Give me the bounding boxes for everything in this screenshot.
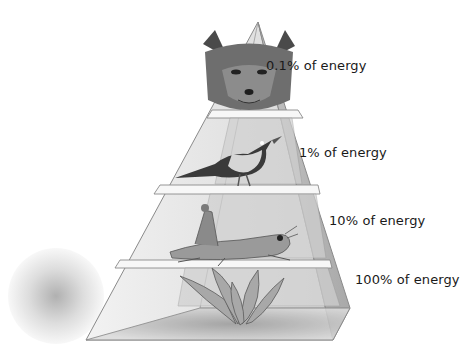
- energy-pyramid-diagram: 0.1% of energy 1% of energy 10% of energ…: [0, 0, 472, 363]
- level-1-energy-label: 100% of energy: [355, 272, 460, 287]
- level-3-energy-label: 1% of energy: [299, 145, 387, 160]
- level-2-energy-label: 10% of energy: [329, 213, 425, 228]
- pyramid-graphic: [0, 0, 472, 363]
- level-4-energy-label: 0.1% of energy: [266, 58, 367, 73]
